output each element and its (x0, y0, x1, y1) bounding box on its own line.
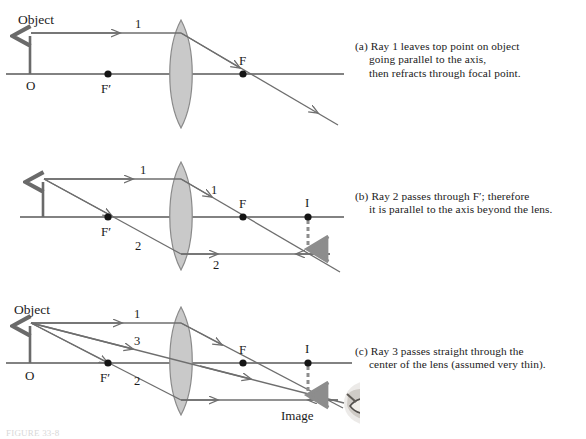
label-focal-far: F (239, 342, 246, 357)
label-ray-1: 1 (134, 307, 140, 321)
caption-a-line-1: (a) Ray 1 leaves top point on object (355, 40, 585, 53)
label-ray-3: 3 (134, 334, 140, 348)
image-point-marker (304, 213, 311, 220)
caption-c: (c) Ray 3 passes straight through the ce… (355, 345, 586, 372)
ray-3-arrow-in (31, 323, 133, 349)
label-object: Object (18, 12, 54, 27)
focal-point-far-marker (239, 213, 246, 220)
panel-c-diagram: Object O F′ F I Image 1 3 2 (0, 290, 360, 439)
label-ray-1-out: 1 (211, 183, 217, 197)
converging-lens (170, 20, 193, 128)
caption-a: (a) Ray 1 leaves top point on object goi… (355, 40, 585, 80)
figure-caption: FIGURE 33-8 (6, 428, 59, 438)
caption-c-line-2: center of the lens (assumed very thin). (355, 358, 586, 371)
image-point-marker (304, 359, 311, 366)
caption-b-line-1: (b) Ray 2 passes through F′; therefore (355, 190, 586, 203)
panel-a-diagram: Object O F′ F 1 (0, 0, 350, 150)
caption-c-line-1: (c) Ray 3 passes straight through the (355, 345, 586, 358)
focal-point-near-marker (104, 70, 111, 77)
label-focal-far: F (239, 53, 246, 68)
label-focal-near: F′ (101, 224, 111, 239)
focal-point-far-marker (239, 70, 246, 77)
label-ray-2-in: 2 (135, 239, 141, 253)
ray-3-arrow-out (200, 366, 251, 379)
panel-b-diagram: F′ F I 1 1 2 2 (0, 150, 350, 290)
panel-a: Object O F′ F 1 (0, 0, 350, 150)
focal-point-far-marker (239, 359, 246, 366)
label-focal-near: F′ (101, 81, 111, 96)
label-image: Image (281, 408, 314, 423)
label-focal-near: F′ (100, 370, 110, 385)
label-origin: O (25, 368, 34, 383)
label-origin: O (26, 78, 35, 93)
label-image-point: I (305, 341, 309, 356)
label-image-point: I (305, 195, 309, 210)
panel-c: Object O F′ F I Image 1 3 2 (0, 290, 350, 439)
caption-b-line-2: it is parallel to the axis beyond the le… (355, 203, 586, 216)
focal-point-near-marker (104, 213, 111, 220)
label-ray-1-in: 1 (140, 163, 146, 177)
optics-figure: Object O F′ F 1 (a) Ray 1 leaves top poi… (0, 0, 586, 439)
ray-2-incident-arrow (44, 179, 112, 216)
eye-observer-icon (344, 381, 360, 425)
label-ray-2-out: 2 (213, 258, 219, 272)
caption-a-line-2: going parallel to the axis, (355, 53, 585, 66)
label-focal-far: F (239, 196, 246, 211)
focal-point-near-marker (104, 359, 111, 366)
label-ray-1: 1 (135, 17, 141, 31)
caption-a-line-3: then refracts through focal point. (355, 67, 585, 80)
ray-2-incident-arrow (31, 323, 108, 363)
label-ray-2: 2 (134, 374, 140, 388)
panel-b: F′ F I 1 1 2 2 (0, 150, 350, 290)
caption-b: (b) Ray 2 passes through F′; therefore i… (355, 190, 586, 217)
label-object: Object (14, 302, 50, 317)
